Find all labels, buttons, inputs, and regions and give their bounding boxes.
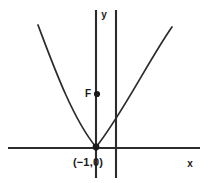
parabola-curve [38,25,172,147]
y-axis-label: y [101,9,107,20]
parabola-figure-svg: y x F (−1,0) [0,0,215,183]
focus-label: F [85,88,91,99]
focus-point-dot [94,91,100,97]
parabola-figure: y x F (−1,0) [0,0,215,183]
x-axis-label: x [187,158,193,169]
vertex-coordinate-label: (−1,0) [73,156,103,168]
vertex-point-dot [93,144,100,151]
